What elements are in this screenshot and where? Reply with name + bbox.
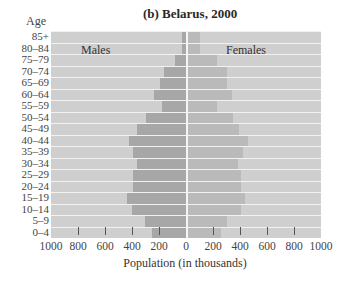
male-bar (145, 216, 186, 227)
female-bar (188, 159, 239, 170)
female-bar (188, 90, 233, 101)
age-group-label: 25–29 (22, 169, 50, 181)
male-bar (162, 101, 186, 112)
male-bar (133, 182, 186, 193)
male-bar (146, 113, 186, 124)
age-group-label: 5–9 (33, 215, 50, 227)
x-tick (105, 227, 106, 235)
female-bar (188, 216, 227, 227)
male-bar (129, 136, 186, 147)
female-bar (188, 136, 249, 147)
age-group-label: 55–59 (22, 100, 50, 112)
age-axis-label: Age (26, 14, 46, 29)
age-group-label: 45–49 (22, 123, 50, 135)
female-bar (188, 205, 241, 216)
female-bar (188, 32, 200, 43)
female-bar (188, 67, 227, 78)
x-tick (267, 227, 268, 235)
age-group-label: 75–79 (22, 54, 50, 66)
male-bar (132, 205, 186, 216)
age-group-label: 85+ (32, 31, 49, 43)
female-bar (188, 182, 241, 193)
center-axis-line (186, 31, 188, 238)
male-bar (152, 228, 186, 239)
x-tick (294, 227, 295, 235)
male-bar (133, 170, 186, 181)
female-bar (188, 101, 217, 112)
female-bar (188, 113, 234, 124)
male-bar (164, 67, 186, 78)
x-tick-label: 1000 (303, 240, 339, 252)
x-tick (132, 227, 133, 235)
males-label: Males (81, 43, 110, 58)
male-bar (160, 78, 186, 89)
age-group-label: 65–69 (22, 77, 50, 89)
x-tick (213, 227, 214, 235)
x-tick (78, 227, 79, 235)
x-tick (240, 227, 241, 235)
female-bar (188, 78, 227, 89)
male-bar (133, 147, 186, 158)
age-group-label: 15–19 (22, 192, 50, 204)
x-axis-label: Population (in thousands) (100, 256, 270, 271)
age-group-label: 35–39 (22, 146, 50, 158)
female-bar (188, 55, 217, 66)
age-group-label: 0–4 (33, 227, 50, 239)
x-tick (159, 227, 160, 235)
chart-title: (b) Belarus, 2000 (120, 6, 260, 22)
female-bar (188, 228, 222, 239)
male-bar (137, 159, 186, 170)
male-bar (137, 124, 186, 135)
female-bar (188, 170, 241, 181)
plot-area: Males Females (51, 31, 321, 238)
male-bar (154, 90, 186, 101)
female-bar (188, 44, 200, 55)
male-bar (127, 193, 186, 204)
female-bar (188, 147, 243, 158)
female-bar (188, 124, 239, 135)
female-bar (188, 193, 245, 204)
male-bar (175, 55, 186, 66)
females-label: Females (226, 43, 266, 58)
